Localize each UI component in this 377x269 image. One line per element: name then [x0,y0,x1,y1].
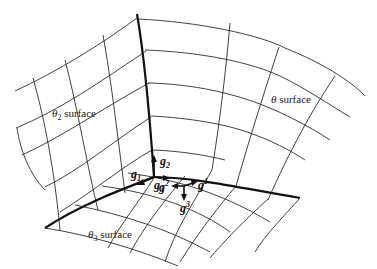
theta2-surface-grid [15,18,152,230]
theta-surface-label: θ surface [271,93,311,105]
g-sub-1-label: g1 [130,167,141,183]
theta-surface-grid [138,19,365,200]
g-super-2-label: g2 [158,179,169,194]
theta3-surface-grid [45,170,300,266]
g-super-1-label: g1 [197,177,208,192]
g-sub-2-label: g2 [159,154,170,170]
theta2-surface-label: θ2 surface [52,107,96,122]
surface-intersection-edges [45,14,300,228]
g-super-3-label: g3 [179,200,190,215]
theta3-surface-label: θ3 surface [88,228,132,243]
contravariant-base-vectors [171,180,198,201]
coordinate-surfaces-diagram: θ2 surface θ surface θ3 surface g2 g1 g3… [0,0,377,269]
